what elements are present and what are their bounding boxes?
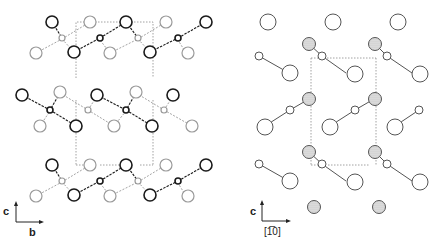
layer-top — [30, 16, 212, 59]
molecule-row-1 — [255, 38, 428, 83]
molecule-row-3 — [255, 146, 428, 191]
right-panel — [255, 14, 428, 223]
unit-cell-right — [311, 58, 376, 165]
axis-label-direction-1-10: [1̅0] — [264, 226, 281, 237]
crystal-structure-figure — [0, 0, 437, 245]
axes-right — [260, 200, 291, 223]
axis-label-b: b — [29, 226, 36, 238]
axis-label-c-right: c — [250, 205, 256, 217]
left-panel — [14, 16, 212, 224]
molecule-row-2 — [257, 93, 423, 136]
layer-bottom — [30, 159, 212, 202]
axis-label-c-left: c — [3, 205, 9, 217]
axes-left — [14, 201, 44, 224]
layer-middle — [16, 86, 198, 132]
